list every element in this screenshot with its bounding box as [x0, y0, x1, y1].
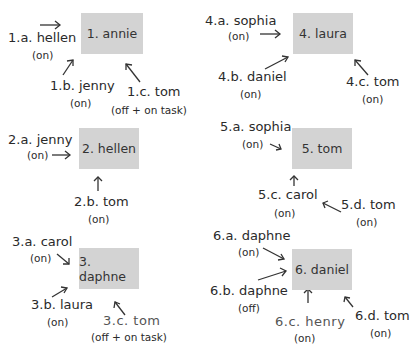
source-label-3b: 3.b. laura	[31, 297, 93, 312]
arrow-6a	[263, 248, 284, 260]
target-box-daphne: 3. daphne	[79, 248, 139, 289]
arrow-5d	[323, 201, 341, 212]
source-label-6a: 6.a. daphne	[213, 228, 291, 243]
arrow-1b	[63, 60, 73, 75]
source-status-2a: (on)	[27, 149, 48, 161]
source-status-3c: (off + on task)	[91, 331, 167, 343]
source-status-3a: (on)	[30, 252, 51, 264]
target-box-tom: 5. tom	[292, 128, 352, 169]
arrow-3a	[57, 254, 69, 264]
source-label-6c: 6.c. henry	[275, 314, 345, 329]
source-status-5d: (on)	[356, 216, 377, 228]
arrow-6d	[344, 297, 353, 307]
arrow-2a	[52, 151, 70, 159]
source-status-3b: (on)	[47, 316, 68, 328]
source-label-4c: 4.c. tom	[346, 74, 400, 89]
source-status-6a: (on)	[238, 246, 259, 258]
source-label-5c: 5.c. carol	[258, 187, 318, 202]
source-label-4a: 4.a. sophia	[205, 13, 276, 28]
arrow-4c	[355, 60, 368, 75]
source-label-2b: 2.b. tom	[74, 194, 129, 209]
target-box-annie: 1. annie	[81, 13, 143, 54]
source-status-5c: (on)	[274, 207, 295, 219]
source-status-6d: (on)	[370, 327, 391, 339]
arrow-5a	[270, 144, 281, 150]
source-status-4c: (on)	[362, 93, 383, 105]
target-box-laura: 4. laura	[293, 13, 353, 54]
arrow-1c	[126, 64, 140, 82]
source-status-1b: (on)	[70, 97, 91, 109]
arrow-6c	[304, 289, 312, 303]
source-label-5d: 5.d. tom	[341, 197, 396, 212]
source-status-1a: (on)	[32, 49, 53, 61]
source-label-6d: 6.d. tom	[355, 308, 410, 323]
source-label-4b: 4.b. daniel	[218, 69, 287, 84]
arrow-4a	[260, 30, 280, 38]
arrow-4b	[265, 56, 288, 69]
source-status-6c: (on)	[294, 332, 315, 344]
source-status-1c: (off + on task)	[111, 104, 187, 116]
source-status-6b: (off)	[238, 302, 260, 314]
target-box-hellen: 2. hellen	[79, 128, 139, 169]
source-label-1a: 1.a. hellen	[8, 30, 76, 45]
source-label-2a: 2.a. jenny	[8, 132, 72, 147]
source-status-4b: (on)	[240, 88, 261, 100]
source-label-3c: 3.c. tom	[103, 313, 161, 328]
arrow-1a	[40, 21, 60, 29]
arrow-6b	[258, 268, 286, 280]
source-label-1c: 1.c. tom	[127, 84, 181, 99]
source-label-6b: 6.b. daphne	[210, 283, 288, 298]
source-status-2b: (on)	[88, 213, 109, 225]
source-label-5a: 5.a. sophia	[220, 119, 291, 134]
source-status-5a: (on)	[242, 138, 263, 150]
source-status-4a: (on)	[228, 30, 249, 42]
arrow-3b	[52, 287, 67, 297]
source-label-3a: 3.a. carol	[12, 234, 72, 249]
arrow-2b	[94, 177, 102, 191]
arrow-5c	[290, 176, 298, 186]
target-box-daniel: 6. daniel	[292, 249, 352, 290]
source-label-1b: 1.b. jenny	[50, 78, 115, 93]
